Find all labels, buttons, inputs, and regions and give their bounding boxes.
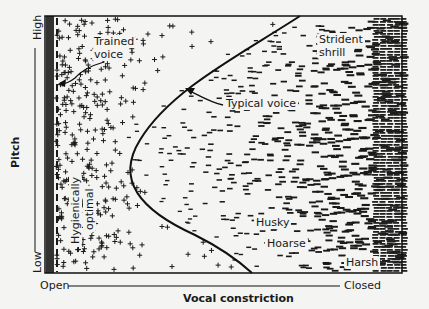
x-axis-title: Vocal constriction	[183, 292, 294, 305]
husky-label: Husky	[254, 216, 291, 229]
y-high-label: High	[31, 15, 44, 40]
shrill-label-line2: shrill	[317, 46, 347, 59]
typical-voice-label: Typical voice	[224, 97, 298, 110]
trained-voice-label-line2: voice	[92, 48, 125, 61]
hygienically-label-line1: Hygienically	[69, 175, 82, 246]
vocal-constriction-diagram: High Pitch Low Open Closed Vocal constri…	[0, 0, 429, 309]
harsh-label: Harsh	[344, 256, 380, 269]
x-open-label: Open	[40, 279, 69, 292]
y-low-label: Low	[31, 251, 44, 273]
trained-voice-label-line1: Trained	[92, 35, 136, 48]
y-axis-title: Pitch	[9, 137, 22, 168]
x-closed-label: Closed	[344, 279, 381, 292]
optimal-label-line2: optimal	[83, 186, 96, 232]
strident-label-line1: Strident	[317, 33, 365, 46]
left-dense-band	[46, 16, 54, 273]
hoarse-label: Hoarse	[265, 237, 308, 250]
typical-voice-curve	[130, 16, 300, 273]
